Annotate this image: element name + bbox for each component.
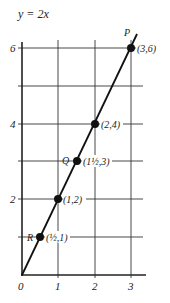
- x-tick-2: 2: [92, 280, 98, 292]
- grid-horizontal: [18, 48, 143, 237]
- label-Q: Q: [62, 155, 70, 166]
- y-tick-2: 2: [10, 193, 16, 205]
- coord-label-2-4: (2,4): [101, 119, 121, 131]
- y-tick-4: 4: [10, 118, 16, 130]
- point-P: [127, 44, 135, 52]
- label-R: R: [26, 232, 33, 243]
- point-Q: [73, 157, 81, 165]
- chart-title: y = 2x: [17, 7, 49, 21]
- coord-label-P: (3,6): [137, 43, 157, 55]
- x-tick-3: 3: [127, 280, 134, 292]
- point-R: [36, 233, 44, 241]
- y-tick-6: 6: [10, 42, 16, 54]
- point-1-2: [54, 195, 62, 203]
- coord-label-1-2: (1,2): [63, 194, 83, 206]
- chart: y = 2x 6 4 2 0 1 2 3 P Q R (½,1) (1,2) (…: [0, 0, 170, 303]
- x-tick-1: 1: [55, 280, 61, 292]
- x-tick-0: 0: [18, 280, 24, 292]
- point-2-4: [91, 120, 99, 128]
- coord-label-R: (½,1): [46, 232, 68, 244]
- label-P: P: [123, 27, 130, 38]
- coord-label-Q: (1½,3): [83, 156, 110, 168]
